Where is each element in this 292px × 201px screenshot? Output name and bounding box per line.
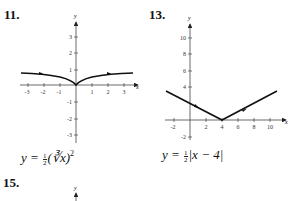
y-tick-label: -3 [67, 132, 72, 138]
graph-15: y [73, 185, 77, 201]
x-tick-label: -2 [41, 89, 46, 95]
x-tick-label: 4 [221, 124, 224, 130]
y-axis-label: y [187, 15, 191, 21]
x-axis-label: x [135, 84, 139, 90]
equation-prefix: y = [162, 147, 183, 162]
x-tick-label: -1 [57, 89, 62, 95]
y-axis-label: y [73, 185, 77, 191]
x-tick-label: 6 [237, 124, 240, 130]
equation-13: y = 12|x − 4| [162, 148, 223, 163]
x-tick-label: 3 [123, 89, 126, 95]
graph-11: x y -3 -2 -1 1 2 3 3 2 1 -1 -2 -3 [20, 13, 139, 143]
function-curve [21, 73, 133, 85]
x-tick-label: 8 [253, 124, 256, 130]
x-axis-label: x [284, 119, 288, 125]
equation-body: |x − 4| [189, 147, 224, 162]
y-tick-label: -2 [67, 116, 72, 122]
y-tick-label: 3 [69, 34, 72, 40]
x-tick-label: 2 [205, 124, 208, 130]
denominator: 2 [43, 160, 47, 166]
direction-arrow-icon [194, 104, 199, 108]
graphs-canvas: x y -3 -2 -1 1 2 3 3 2 1 -1 -2 -3 [0, 0, 292, 201]
equation-11: y = 12(∛x)2 [21, 150, 74, 166]
denominator: 2 [184, 157, 188, 163]
y-tick-label: -2 [181, 134, 186, 140]
fraction: 12 [43, 153, 47, 166]
equation-prefix: y = [21, 150, 42, 165]
equation-body: (∛x) [48, 150, 70, 165]
graph-13: x y -2 2 4 6 8 10 10 8 6 4 -2 [165, 15, 288, 140]
y-axis-label: y [73, 13, 77, 19]
exponent: 2 [70, 149, 74, 158]
y-tick-label: 4 [183, 84, 186, 90]
y-tick-label: 2 [69, 50, 72, 56]
y-tick-label: 1 [69, 67, 72, 73]
y-tick-label: 8 [183, 51, 186, 57]
x-tick-label: -2 [171, 124, 176, 130]
function-curve [166, 91, 277, 120]
x-tick-label: 2 [107, 89, 110, 95]
x-tick-label: 1 [91, 89, 94, 95]
fraction: 12 [184, 150, 188, 163]
y-tick-label: -1 [67, 99, 72, 105]
y-tick-label: 6 [183, 68, 186, 74]
x-tick-label: -3 [25, 89, 30, 95]
x-tick-label: 10 [267, 124, 273, 130]
y-tick-label: 10 [180, 35, 186, 41]
